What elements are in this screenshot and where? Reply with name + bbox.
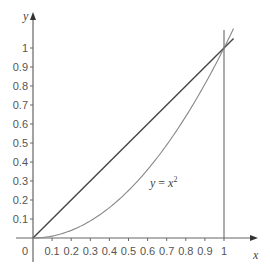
x-tick-label: 0.1 [44, 245, 59, 257]
curves [33, 29, 234, 238]
curve-label-exp: 2 [173, 175, 177, 184]
series-y-x [33, 39, 234, 239]
x-tick-label: 0.6 [140, 245, 155, 257]
y-tick-label: 0.7 [13, 99, 28, 111]
y-tick-label: 0.9 [13, 61, 28, 73]
curve-label-parabola: y = x2 [149, 175, 177, 190]
series-y-x-2 [33, 29, 234, 238]
curve-label-eq: = [155, 176, 168, 190]
x-axis-arrow-icon [250, 235, 258, 241]
y-tick-label: 0.6 [13, 118, 28, 130]
x-tick-label: 0.3 [83, 245, 98, 257]
x-tick-label: 0.2 [64, 245, 79, 257]
x-tick-label: 0.8 [178, 245, 193, 257]
y-tick-label: 0.2 [13, 194, 28, 206]
x-tick-label: 1 [221, 245, 227, 257]
chart: 0.10.20.30.40.50.60.70.80.910.10.20.30.4… [0, 0, 270, 269]
x-axis-label: x [252, 248, 259, 262]
x-tick-label: 0.5 [121, 245, 136, 257]
ticks: 0.10.20.30.40.50.60.70.80.910.10.20.30.4… [13, 42, 227, 257]
origin-label: 0 [22, 245, 28, 257]
y-axis-arrow-icon [30, 12, 36, 20]
y-tick-label: 0.3 [13, 175, 28, 187]
y-tick-label: 0.4 [13, 156, 28, 168]
x-tick-label: 0.7 [159, 245, 174, 257]
y-tick-label: 1 [22, 42, 28, 54]
y-tick-label: 0.8 [13, 80, 28, 92]
y-axis-label: y [22, 9, 29, 23]
y-tick-label: 0.1 [13, 213, 28, 225]
x-tick-label: 0.9 [197, 245, 212, 257]
x-tick-label: 0.4 [102, 245, 117, 257]
y-tick-label: 0.5 [13, 137, 28, 149]
